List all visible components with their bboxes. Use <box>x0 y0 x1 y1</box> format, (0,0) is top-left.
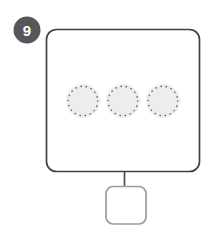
figure-canvas: 9 <box>0 0 217 232</box>
dotted-circle-fill <box>66 84 100 118</box>
port-box <box>106 187 146 225</box>
dotted-circle-fill <box>146 84 180 118</box>
dotted-circle-group <box>66 84 180 118</box>
diagram-svg: 9 <box>0 0 217 232</box>
step-badge-number: 9 <box>23 22 31 39</box>
dotted-circle-fill <box>106 84 140 118</box>
